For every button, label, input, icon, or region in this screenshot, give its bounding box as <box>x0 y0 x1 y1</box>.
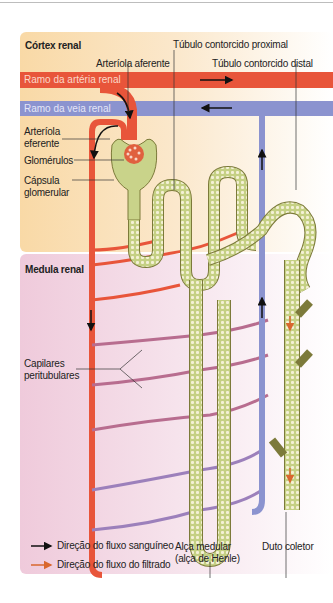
glomeruli-label: Glomérulos <box>24 155 73 167</box>
medulla-label: Medula renal <box>25 264 84 276</box>
peritubular-label-2: peritubulares <box>24 370 79 382</box>
legend-blood-flow: Direção do fluxo sanguíneo <box>57 540 174 552</box>
afferent-arteriole-label: Arteríola aferente <box>96 58 170 70</box>
nephron-diagram <box>0 0 333 603</box>
efferent-arteriole-label-1: Arteríola <box>24 126 60 138</box>
legend-filtrate-flow: Direção do fluxo do filtrado <box>57 559 170 571</box>
peritubular-label-1: Capilares <box>24 358 64 370</box>
capsule-label-1: Cápsula <box>24 175 59 187</box>
loop-label-2: (alça de Henle) <box>175 553 240 565</box>
efferent-arteriole-label-2: eferente <box>24 138 59 150</box>
vein-band-label: Ramo da veia renal <box>24 103 111 115</box>
artery-band-label: Ramo da artéria renal <box>24 74 121 86</box>
proximal-tubule-label: Túbulo contorcido proximal <box>173 39 288 51</box>
cortex-label: Córtex renal <box>25 40 81 52</box>
collecting-duct-label: Duto coletor <box>262 541 314 553</box>
distal-tubule-label: Túbulo contorcido distal <box>212 58 313 70</box>
loop-label-1: Alça medular <box>175 541 231 553</box>
capsule-label-2: glomerular <box>24 187 69 199</box>
